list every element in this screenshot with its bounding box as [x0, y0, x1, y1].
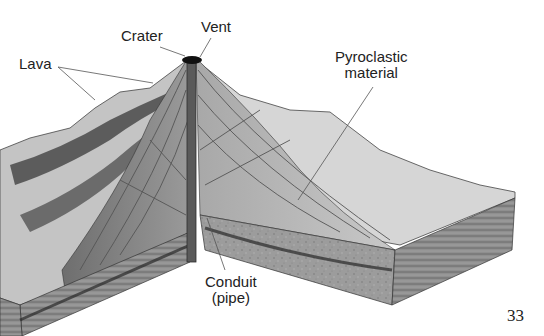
- lava-leader-1: [58, 67, 153, 83]
- vent-leader: [200, 38, 211, 57]
- label-pyroclastic-line1: Pyroclastic: [335, 49, 408, 65]
- label-conduit-line2: (pipe): [205, 290, 257, 306]
- label-crater: Crater: [121, 28, 163, 44]
- conduit-pipe: [187, 60, 196, 262]
- label-pyroclastic-line2: material: [335, 65, 408, 81]
- crater-leader: [160, 47, 185, 56]
- label-conduit-line1: Conduit: [205, 274, 257, 290]
- page-number: 33: [507, 306, 524, 326]
- label-pyroclastic: Pyroclastic material: [335, 49, 408, 81]
- label-vent: Vent: [201, 19, 231, 35]
- label-lava: Lava: [19, 56, 52, 72]
- label-conduit: Conduit (pipe): [205, 274, 257, 306]
- crater: [182, 56, 202, 64]
- volcano-diagram: [0, 0, 544, 336]
